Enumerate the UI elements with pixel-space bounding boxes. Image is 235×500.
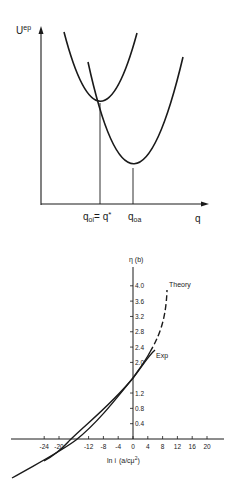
theory-curve-dashed	[150, 290, 167, 352]
x-tick-label: 4	[146, 443, 150, 450]
y-tick-label: 0.4	[135, 420, 144, 427]
x-tick-label: 8	[161, 443, 165, 450]
y-ticks: 0.40.81.22.02.42.83.23.64.0	[130, 282, 144, 427]
qoi-label: qoi= q*	[83, 210, 111, 223]
potential-energy-chart: Uep q qoi= q* qoa	[16, 24, 209, 224]
y-tick-label: 4.0	[135, 282, 144, 289]
x-tick-label: -8	[101, 443, 107, 450]
y-tick-label: 2.4	[135, 344, 144, 351]
y-tick-label: 1.2	[135, 390, 144, 397]
initial-state-parabola	[64, 32, 137, 101]
x-tick-label: 16	[189, 443, 197, 450]
theory-label: Theory	[169, 281, 191, 289]
x-tick-label: 20	[203, 443, 211, 450]
eta-axis-label: η (b)	[129, 256, 143, 264]
x-axis-label: q	[195, 213, 201, 224]
y-axis-label: Uep	[16, 24, 31, 36]
x-tick-label: -12	[84, 443, 94, 450]
x-tick-label: 12	[174, 443, 182, 450]
x-tick-label: -4	[115, 443, 121, 450]
exp-label: Exp	[156, 352, 168, 360]
x-axis-arrow-icon	[201, 202, 209, 207]
qoa-label: qoa	[128, 211, 141, 223]
tafel-plot: -24-20-12-8-4048121620 0.40.81.22.02.42.…	[11, 256, 224, 478]
ln-i-axis-label: ln i(a/cμ2)	[107, 455, 140, 465]
y-tick-label: 3.2	[135, 313, 144, 320]
y-tick-label: 2.8	[135, 328, 144, 335]
y-tick-label: 3.6	[135, 298, 144, 305]
x-tick-label: 0	[131, 443, 135, 450]
figure: Uep q qoi= q* qoa -24-20-12-8-4048121620…	[0, 0, 235, 500]
x-tick-label: -24	[39, 443, 49, 450]
y-tick-label: 0.8	[135, 405, 144, 412]
y-axis-arrow-icon	[39, 26, 44, 34]
final-state-parabola	[88, 57, 183, 164]
